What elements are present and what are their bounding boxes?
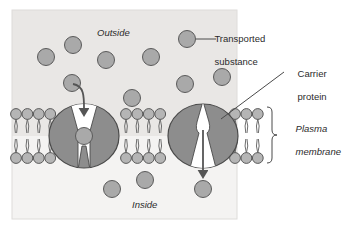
transported-substance-label: Transported substance xyxy=(204,21,265,79)
transported-substance-label-line2: substance xyxy=(215,56,258,67)
inside-label: Inside xyxy=(132,199,157,210)
carrier-protein-label: Carrier protein xyxy=(287,56,327,114)
carrier-protein-label-line2: protein xyxy=(298,91,327,102)
substance-particle xyxy=(177,76,194,93)
substance-particle xyxy=(98,52,115,69)
substance-particle xyxy=(65,37,82,54)
legend-substance-marker xyxy=(179,31,196,48)
carrier-protein-label-line1: Carrier xyxy=(298,68,327,79)
substance-particle xyxy=(124,90,141,107)
substance-particle xyxy=(143,49,160,66)
plasma-membrane-label-line1: Plasma xyxy=(296,123,328,134)
substance-particle xyxy=(38,49,55,66)
bound-substance xyxy=(76,128,93,145)
substance-particle xyxy=(64,75,81,92)
facilitated-diffusion-diagram: Outside Inside Transported substance Car… xyxy=(0,0,345,229)
transported-substance-label-line1: Transported xyxy=(214,33,265,44)
outside-label: Outside xyxy=(97,27,130,38)
plasma-membrane-label-line2: membrane xyxy=(296,146,341,157)
plasma-membrane-label: Plasma membrane xyxy=(285,111,341,169)
substance-particle xyxy=(137,172,154,189)
substance-particle xyxy=(104,181,121,198)
plasma-membrane-bracket xyxy=(267,107,277,163)
substance-particle xyxy=(195,181,212,198)
